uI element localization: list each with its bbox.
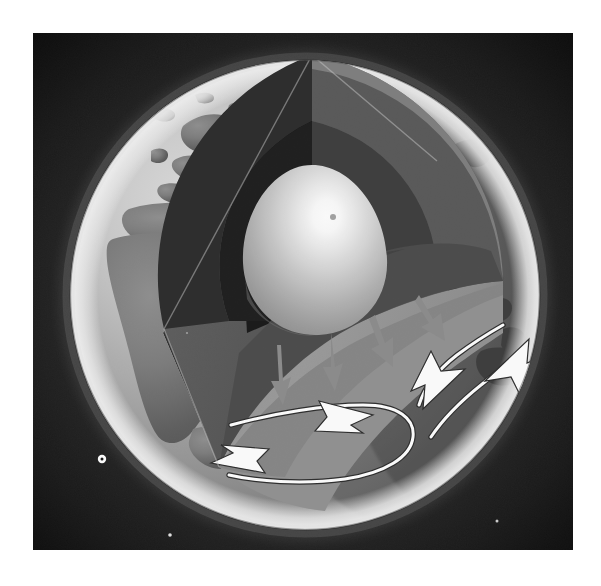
earth-cutaway-illustration bbox=[33, 33, 573, 550]
print-grain-overlay bbox=[33, 33, 573, 550]
illustration-plate bbox=[33, 33, 573, 550]
figure-root: Cutaway view of the Earth's interior sho… bbox=[0, 0, 601, 586]
